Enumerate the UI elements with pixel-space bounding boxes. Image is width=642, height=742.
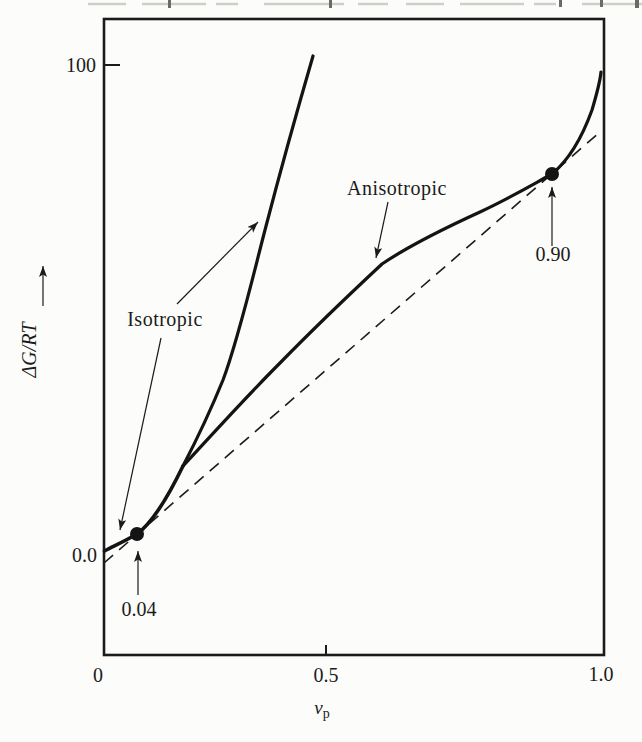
anisotropic-arrow — [376, 202, 388, 258]
y-axis-title: ΔG/RT — [18, 321, 40, 379]
x-tick-label-1.0: 1.0 — [589, 663, 614, 685]
isotropic-lower-arrow — [120, 338, 161, 530]
isotropic-label: Isotropic — [127, 308, 203, 331]
point-0.90-dot — [545, 167, 559, 181]
curve-common-segment — [105, 466, 184, 551]
scanned-book-figure: 100 0.0 0 0.5 1.0 ΔG/RT vp Isotropic Ani… — [0, 0, 642, 742]
plot-frame — [104, 19, 604, 655]
free-energy-plot: 100 0.0 0 0.5 1.0 ΔG/RT vp Isotropic Ani… — [0, 0, 642, 742]
curve-anisotropic — [183, 72, 601, 466]
annotation-0.90: 0.90 — [536, 243, 571, 265]
clipped-text-fragments — [88, 0, 642, 8]
x-axis-title: vp — [314, 697, 329, 721]
anisotropic-label: Anisotropic — [347, 177, 447, 200]
y-tick-label-0.0: 0.0 — [72, 544, 97, 566]
annotation-0.04: 0.04 — [122, 598, 157, 620]
clipped-letter-descender — [559, 0, 562, 7]
x-tick-label-0.5: 0.5 — [314, 664, 339, 686]
point-0.04-dot — [130, 527, 144, 541]
clipped-letter-descender — [600, 0, 603, 7]
curve-isotropic — [183, 56, 313, 466]
x-axis-title-subscript: p — [323, 706, 330, 721]
x-tick-label-0: 0 — [93, 664, 103, 686]
clipped-letter-descender — [168, 0, 171, 8]
isotropic-upper-arrow — [177, 222, 258, 304]
clipped-letter-descender — [635, 0, 639, 8]
y-tick-label-100: 100 — [66, 54, 96, 76]
clipped-letter-descender — [329, 0, 332, 8]
